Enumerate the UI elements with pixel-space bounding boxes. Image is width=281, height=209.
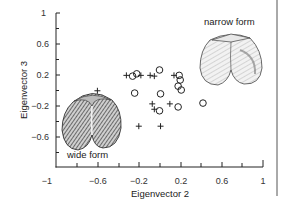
plus-marker	[147, 72, 153, 78]
x-tick-label: −0.6	[89, 176, 107, 186]
narrow-shell-illustration	[200, 34, 262, 85]
y-tick-labels: 1 0.6 0.2 −0.2 −0.6	[31, 8, 49, 142]
circle-marker	[156, 107, 163, 114]
x-axis-title: Eigenvector 2	[131, 188, 189, 199]
plus-marker	[149, 101, 155, 107]
x-tick-label: −0.2	[130, 176, 148, 186]
x-tick-label: 1	[260, 176, 265, 186]
y-tick-label: −0.6	[31, 132, 49, 142]
x-tick-label: 0.2	[175, 176, 188, 186]
circle-marker	[177, 77, 184, 84]
wide-shell-illustration	[62, 93, 121, 150]
plus-marker	[151, 73, 157, 79]
plus-marker	[94, 88, 100, 94]
x-tick-label: 0.6	[216, 176, 229, 186]
plus-marker	[123, 72, 129, 78]
x-tick-labels: −1 −0.6 −0.2 0.2 0.6 1	[42, 176, 266, 186]
y-tick-label: −0.2	[31, 101, 49, 111]
x-tick-label: −1	[42, 176, 52, 186]
circle-marker	[157, 91, 164, 98]
narrow-form-label: narrow form	[204, 16, 255, 27]
y-tick-label: 0.6	[36, 39, 49, 49]
wide-form-label: wide form	[66, 149, 108, 160]
plus-marker	[138, 72, 144, 78]
circle-marker	[131, 90, 138, 97]
circle-marker	[156, 67, 163, 74]
plus-marker	[136, 123, 142, 129]
circle-marker	[200, 100, 207, 107]
y-axis-title: Eigenvector 3	[18, 61, 29, 119]
circle-marker	[175, 104, 182, 111]
plus-marker	[167, 101, 173, 107]
y-tick-label: 1	[41, 8, 46, 18]
y-tick-label: 0.2	[36, 70, 49, 80]
plus-marker	[158, 123, 164, 129]
scatter-chart: 1 0.6 0.2 −0.2 −0.6 −1 −0.6 −0.2 0.2 0.6…	[0, 0, 281, 209]
